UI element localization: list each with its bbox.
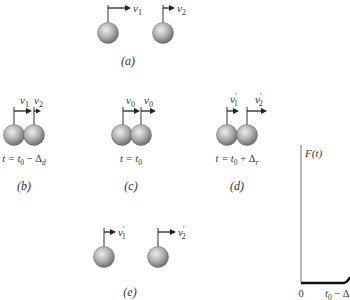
x-tick-label: t0 − Δ <box>325 288 350 300</box>
panel-e: v′1 v′2 (e) <box>94 225 186 299</box>
panel-d: v′1 v′2 t = t0 + Δr (d) <box>216 92 267 193</box>
label-v1: v1 <box>133 2 142 17</box>
velocity-arrow-v1: v1 <box>108 2 142 17</box>
velocity-arrow-v1-prime <box>104 229 116 235</box>
label-v1-prime: v′1 <box>230 92 238 108</box>
panel-c: v0 v0 t = t0 (c) <box>112 94 157 193</box>
velocity-arrow-v2 <box>34 109 41 114</box>
label-v0-left: v0 <box>126 94 135 109</box>
ball-1 <box>112 125 133 146</box>
label-v2: v2 <box>34 94 43 109</box>
time-label-d: t = t0 + Δr <box>216 153 259 167</box>
ball-2 <box>131 125 152 146</box>
force-curve <box>301 277 350 283</box>
collision-diagram: v1 v2 (a) v1 <box>0 0 350 300</box>
label-v2: v2 <box>177 2 186 17</box>
caption-d: (d) <box>230 179 244 193</box>
label-v2-prime: v′2 <box>178 225 186 241</box>
force-graph: F(t) 0 t0 − Δ <box>298 145 350 300</box>
caption-c: (c) <box>124 179 137 193</box>
ball-1 <box>98 5 119 44</box>
ball-1 <box>94 247 115 268</box>
ball-1 <box>217 125 238 146</box>
caption-b: (b) <box>17 179 31 193</box>
ball-2 <box>148 247 169 268</box>
y-axis-label: F(t) <box>304 147 322 160</box>
label-v1: v1 <box>20 94 29 109</box>
ball-2 <box>153 5 174 44</box>
velocity-arrow-v2: v2 <box>163 2 186 17</box>
time-label-b: t = t0 − Δd <box>2 153 46 167</box>
velocity-arrow-v2-prime <box>247 108 267 114</box>
ball-2 <box>24 125 45 146</box>
ball-2 <box>237 125 258 146</box>
label-v1-prime: v′1 <box>118 225 126 241</box>
label-v0-right: v0 <box>144 94 153 109</box>
panel-b: v1 v2 t = t0 − Δd (b) <box>2 94 46 193</box>
panel-a: v1 v2 (a) <box>98 2 186 68</box>
label-v2-prime: v′2 <box>255 92 263 108</box>
caption-a: (a) <box>121 54 135 68</box>
x-origin-label: 0 <box>298 288 303 299</box>
velocity-arrow-v2-prime <box>158 229 176 235</box>
velocity-arrow-v1-prime <box>227 108 239 114</box>
ball-1 <box>4 125 25 146</box>
velocity-arrow-v1 <box>14 108 32 114</box>
time-label-c: t = t0 <box>120 153 142 167</box>
caption-e: (e) <box>123 285 136 299</box>
